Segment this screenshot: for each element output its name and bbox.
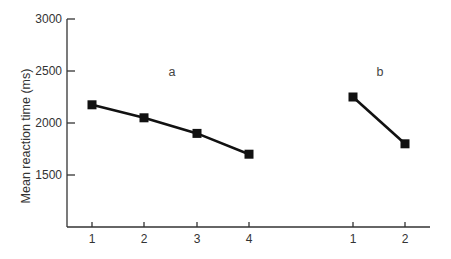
square-marker-icon [140, 113, 149, 122]
y-axis-title: Mean reaction time (ms) [19, 69, 33, 204]
x-tick-label: 2 [141, 232, 148, 246]
x-tick-label: 4 [246, 232, 253, 246]
panel-label-a: a [169, 65, 176, 79]
square-marker-icon [88, 100, 97, 109]
y-tick-label: 2500 [35, 64, 62, 78]
panel-label-b: b [377, 65, 384, 79]
series-line-a [92, 105, 249, 154]
series-layer [88, 93, 410, 159]
x-axis [67, 222, 430, 227]
x-tick-label: 3 [194, 232, 201, 246]
series-line-b [353, 97, 405, 144]
x-tick-labels: 1 2 3 4 1 2 [89, 232, 409, 246]
reaction-time-chart: 3000 2500 2000 1500 1 2 3 4 1 2 Mean rea… [0, 0, 451, 259]
x-tick-label: 2 [402, 232, 409, 246]
y-tick-label: 1500 [35, 168, 62, 182]
y-tick-label: 2000 [35, 116, 62, 130]
square-marker-icon [245, 150, 254, 159]
x-tick-label: 1 [89, 232, 96, 246]
square-marker-icon [401, 139, 410, 148]
y-tick-labels: 3000 2500 2000 1500 [35, 12, 62, 182]
square-marker-icon [193, 129, 202, 138]
y-axis [67, 19, 75, 227]
square-marker-icon [349, 93, 358, 102]
y-tick-label: 3000 [35, 12, 62, 26]
x-tick-label: 1 [350, 232, 357, 246]
